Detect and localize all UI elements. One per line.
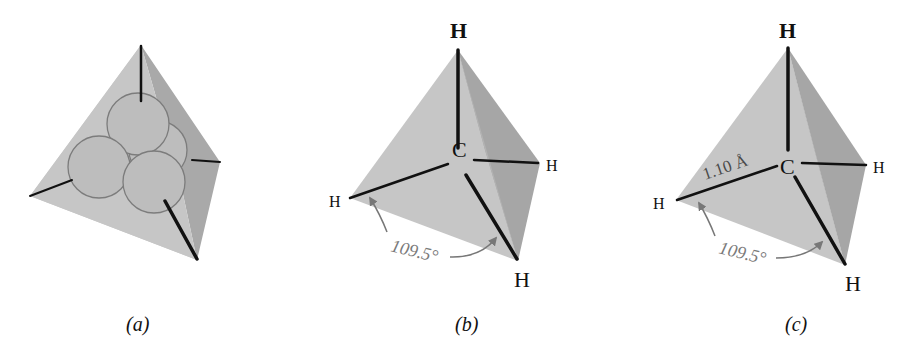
atom-h-left: H bbox=[329, 193, 341, 210]
caption-c: (c) bbox=[785, 313, 808, 336]
bond-angle-label: 109.5° bbox=[717, 237, 768, 268]
atom-c: C bbox=[780, 154, 795, 179]
orbital-left bbox=[68, 136, 130, 198]
caption-a: (a) bbox=[126, 313, 150, 336]
tetrahedron-figure: (a) C H H H H 109.5° (b) C H bbox=[0, 0, 916, 355]
atom-h-bottom: H bbox=[514, 267, 530, 292]
panel-c: C H H H H 1.10 Å 109.5° (c) bbox=[653, 18, 885, 336]
atom-h-top: H bbox=[450, 18, 467, 43]
atom-h-left: H bbox=[653, 195, 665, 212]
atom-h-bottom: H bbox=[845, 271, 861, 296]
caption-b: (b) bbox=[455, 313, 479, 336]
atom-h-right: H bbox=[873, 159, 885, 176]
panel-b: C H H H H 109.5° (b) bbox=[329, 18, 558, 336]
bond-angle-label: 109.5° bbox=[389, 235, 440, 266]
atom-h-right: H bbox=[546, 157, 558, 174]
orbital-front bbox=[123, 151, 185, 213]
panel-a: (a) bbox=[30, 45, 220, 336]
atom-c: C bbox=[452, 137, 467, 162]
atom-h-top: H bbox=[779, 18, 796, 43]
